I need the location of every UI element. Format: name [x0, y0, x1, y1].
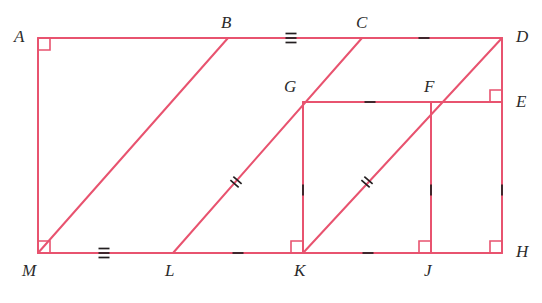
vertex-label-h: H [516, 243, 528, 260]
right-angle-E [490, 90, 502, 102]
right-angle-K [291, 241, 303, 253]
vertex-label-k: K [294, 262, 305, 279]
vertex-label-f: F [424, 78, 434, 95]
diagonal-MB [38, 38, 228, 253]
right-angle-H [490, 241, 502, 253]
right-angle-A [38, 38, 50, 50]
vertex-label-g: G [284, 78, 296, 95]
geometry-svg [0, 0, 542, 303]
vertex-label-m: M [22, 262, 36, 279]
tick-marks-group [99, 34, 503, 258]
vertex-label-d: D [516, 28, 528, 45]
geometry-figure-canvas: ABCDEFGHJKLM [0, 0, 542, 303]
vertex-label-l: L [165, 262, 174, 279]
vertex-label-c: C [356, 14, 367, 31]
vertex-label-b: B [221, 14, 231, 31]
right-angles-group [38, 38, 502, 253]
segments-group [38, 38, 502, 253]
vertex-label-j: J [424, 262, 432, 279]
tick-BC-triple [286, 34, 297, 43]
right-angle-J [419, 241, 431, 253]
vertex-label-a: A [14, 28, 24, 45]
vertex-label-e: E [516, 93, 526, 110]
tick-ML-triple [99, 249, 110, 258]
